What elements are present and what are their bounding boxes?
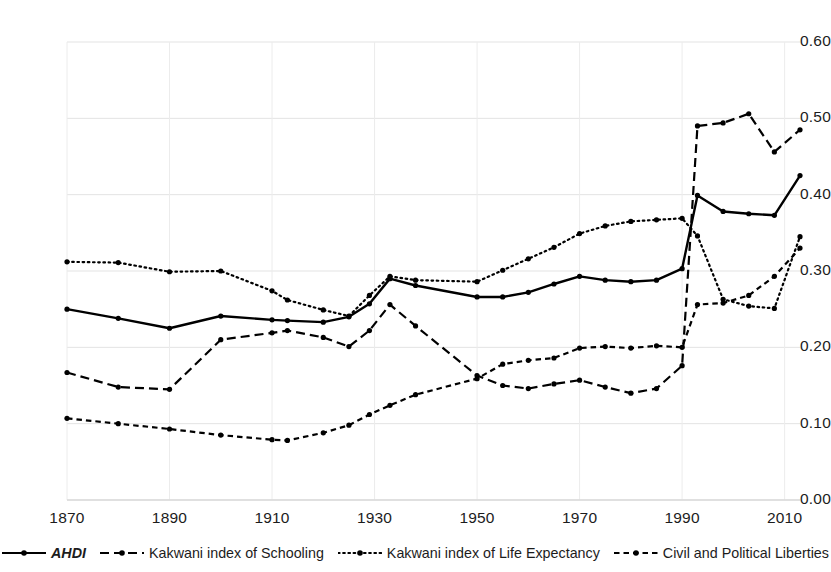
data-point-marker [654,278,659,283]
data-point-marker [116,316,121,321]
x-axis-tick-label: 1970 [545,509,615,527]
data-point-marker [746,304,751,309]
data-point-marker [474,376,479,381]
data-point-marker [346,344,351,349]
data-point-marker [797,234,802,239]
chart-series [64,246,802,444]
data-point-marker [321,335,326,340]
x-axis-tick-label: 1990 [647,509,717,527]
data-point-marker [603,384,608,389]
data-point-marker [167,426,172,431]
data-point-marker [526,358,531,363]
data-point-marker [746,111,751,116]
data-point-marker [116,421,121,426]
data-point-marker [772,149,777,154]
data-point-marker [695,123,700,128]
data-point-marker [500,294,505,299]
data-point-marker [269,317,274,322]
data-point-marker [218,337,223,342]
series-line [67,114,800,393]
chart-plot-area [0,0,831,572]
data-point-marker [526,290,531,295]
data-point-marker [218,433,223,438]
y-axis-tick-label: 0.30 [773,261,831,279]
data-point-marker [797,246,802,251]
data-point-marker [500,383,505,388]
data-point-marker [577,274,582,279]
legend-item[interactable]: AHDI [2,545,86,561]
data-point-marker [603,278,608,283]
data-point-marker [500,268,505,273]
data-point-marker [367,328,372,333]
legend-line-swatch [614,546,658,560]
data-point-marker [367,293,372,298]
data-point-marker [551,245,556,250]
series-line [67,248,800,440]
x-axis-tick-label: 1910 [237,509,307,527]
legend-item[interactable]: Kakwani index of Life Expectancy [338,545,600,561]
data-point-marker [628,391,633,396]
legend-item-label: Kakwani index of Schooling [149,545,324,561]
x-axis-tick-label: 2010 [750,509,820,527]
data-point-marker [680,363,685,368]
data-point-marker [116,260,121,265]
data-point-marker [603,223,608,228]
data-point-marker [772,213,777,218]
data-point-marker [577,346,582,351]
data-point-marker [500,362,505,367]
data-point-marker [367,301,372,306]
data-point-marker [746,211,751,216]
data-point-marker [218,313,223,318]
y-axis-tick-label: 0.20 [773,337,831,355]
data-point-marker [269,437,274,442]
x-axis-tick-label: 1950 [442,509,512,527]
data-point-marker [269,288,274,293]
data-point-marker [526,256,531,261]
data-point-marker [551,355,556,360]
data-point-marker [654,343,659,348]
data-point-marker [680,266,685,271]
legend-line-swatch [338,546,382,560]
series-line [67,176,800,329]
legend-item-label: Kakwani index of Life Expectancy [387,545,600,561]
chart-legend: AHDIKakwani index of SchoolingKakwani in… [0,540,831,566]
data-point-marker [695,302,700,307]
series-layer [64,111,802,443]
data-point-marker [577,378,582,383]
data-point-marker [321,320,326,325]
data-point-marker [321,430,326,435]
y-axis-tick-label: 0.50 [773,108,831,126]
data-point-marker [474,294,479,299]
y-axis-tick-label: 0.10 [773,414,831,432]
legend-item[interactable]: Kakwani index of Schooling [100,545,324,561]
y-axis-tick-label: 0.40 [773,185,831,203]
data-point-marker [285,318,290,323]
data-point-marker [695,233,700,238]
data-point-marker [346,313,351,318]
data-point-marker [721,120,726,125]
y-axis-tick-label: 0.00 [773,490,831,508]
data-point-marker [551,381,556,386]
data-point-marker [526,386,531,391]
data-point-marker [577,231,582,236]
data-point-marker [64,416,69,421]
data-point-marker [695,193,700,198]
chart-container: 0.000.100.200.300.400.500.60 18701890191… [0,0,831,572]
data-point-marker [218,268,223,273]
data-point-marker [346,423,351,428]
legend-item-label: AHDI [51,545,86,561]
data-point-marker [413,278,418,283]
x-axis-tick-label: 1890 [135,509,205,527]
legend-item[interactable]: Civil and Political Liberties [614,545,829,561]
data-point-marker [387,274,392,279]
data-point-marker [721,300,726,305]
data-point-marker [413,392,418,397]
data-point-marker [285,328,290,333]
data-point-marker [413,323,418,328]
data-point-marker [64,259,69,264]
data-point-marker [797,173,802,178]
chart-series [64,216,802,319]
x-axis-tick-label: 1930 [340,509,410,527]
data-point-marker [387,403,392,408]
data-point-marker [167,269,172,274]
